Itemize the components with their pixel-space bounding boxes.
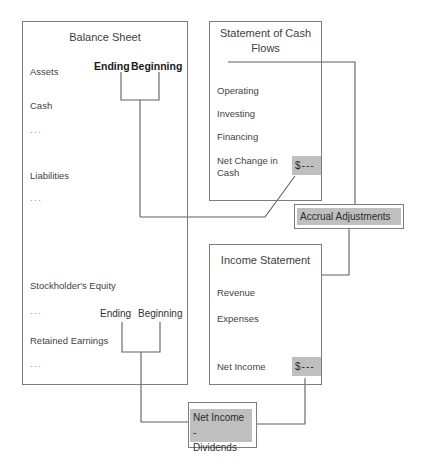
balance-sheet-item-dots-4: ... [30, 358, 42, 369]
top-bracket-label-ending: Ending [94, 60, 130, 72]
cash-flows-title: Statement of Cash Flows [209, 26, 322, 56]
accrual-adjustments-label: Accrual Adjustments [297, 208, 401, 225]
balance-sheet-item-dots-1: ... [30, 124, 42, 135]
income-statement-item-net-income: Net Income [217, 361, 266, 373]
cash-flows-item-financing: Financing [217, 131, 258, 143]
diagram-canvas: Balance Sheet Assets Cash ... Liabilitie… [0, 0, 428, 471]
balance-sheet-item-cash: Cash [30, 100, 52, 112]
balance-sheet-item-retained-earnings: Retained Earnings [30, 335, 108, 347]
top-bracket-label-beginning: Beginning [131, 60, 182, 72]
cash-flows-item-investing: Investing [217, 108, 255, 120]
accrual-to-income-wire [322, 228, 349, 275]
bottom-bracket-label-beginning: Beginning [138, 308, 182, 319]
income-statement-item-revenue: Revenue [217, 287, 255, 299]
balance-sheet-item-stockholders-equity: Stockholder's Equity [30, 280, 116, 292]
balance-sheet-item-dots-2: ... [30, 192, 42, 203]
income-statement-amount-chip: $--- [292, 357, 321, 376]
balance-sheet-title: Balance Sheet [22, 30, 188, 45]
cash-flows-amount-chip: $--- [292, 156, 321, 175]
balance-sheet-item-dots-3: ... [30, 305, 42, 316]
net-income-dividends-label: Net Income - Dividends [190, 409, 252, 442]
cash-flows-item-net-change-in-cash: Net Change in Cash [217, 155, 278, 179]
balance-sheet-item-assets: Assets [30, 66, 59, 78]
balance-sheet-item-liabilities: Liabilities [30, 170, 69, 182]
cash-flows-item-operating: Operating [217, 85, 259, 97]
income-statement-title: Income Statement [209, 253, 322, 268]
bottom-bracket-label-ending: Ending [100, 308, 131, 319]
income-statement-item-expenses: Expenses [217, 313, 259, 325]
